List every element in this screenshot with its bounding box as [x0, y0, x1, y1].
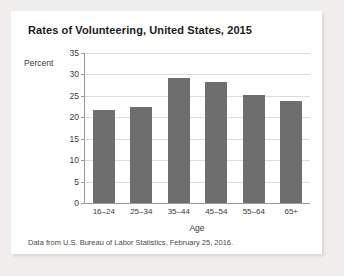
y-axis-tick-label: 0	[74, 198, 79, 208]
y-axis-tick-label: 10	[70, 155, 79, 165]
bar[interactable]	[205, 82, 227, 203]
source-note: Data from U.S. Bureau of Labor Statistic…	[28, 238, 233, 247]
x-axis-label: Age	[84, 223, 310, 233]
bar[interactable]	[280, 101, 302, 203]
y-axis-tick-label: 30	[70, 69, 79, 79]
bar-series: 16–2425–3435–4445–5455–6465+	[85, 53, 310, 203]
bar-slot: 25–34	[123, 53, 160, 203]
bar[interactable]	[130, 107, 152, 203]
y-axis-tick-label: 20	[70, 112, 79, 122]
bar[interactable]	[93, 110, 115, 203]
bar-slot: 45–54	[198, 53, 235, 203]
figure-card: Rates of Volunteering, United States, 20…	[11, 11, 322, 254]
bar[interactable]	[243, 95, 265, 203]
y-axis-tick-label: 15	[70, 134, 79, 144]
x-axis-tick-label: 25–34	[130, 207, 152, 216]
x-axis-tick-label: 65+	[284, 207, 298, 216]
x-axis-tick-label: 16–24	[93, 207, 115, 216]
bar[interactable]	[168, 78, 190, 203]
bar-slot: 55–64	[235, 53, 272, 203]
x-axis-line	[84, 203, 310, 204]
bar-slot: 65+	[273, 53, 310, 203]
y-axis-tick-label: 35	[70, 48, 79, 58]
bar-slot: 16–24	[85, 53, 122, 203]
plot-area: 05101520253035 16–2425–3435–4445–5455–64…	[84, 53, 310, 203]
plot-wrapper: 05101520253035 16–2425–3435–4445–5455–64…	[11, 11, 322, 254]
bar-slot: 35–44	[160, 53, 197, 203]
x-axis-tick-label: 55–64	[243, 207, 265, 216]
x-axis-tick-label: 35–44	[168, 207, 190, 216]
y-axis-tick-label: 25	[70, 91, 79, 101]
y-axis-tick-label: 5	[74, 177, 79, 187]
x-axis-tick-label: 45–54	[205, 207, 227, 216]
